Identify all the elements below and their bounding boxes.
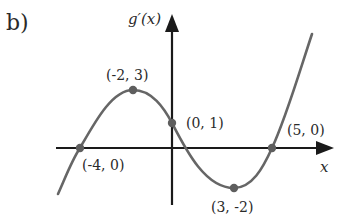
x-axis-label: x (320, 160, 328, 175)
point-5-0 (268, 144, 276, 152)
point-label-neg4-0: (-4, 0) (82, 158, 124, 172)
point-3-neg2 (230, 184, 238, 192)
y-axis-arrow-icon (165, 14, 179, 32)
point-neg2-3 (129, 86, 137, 94)
x-axis-arrow-icon (316, 141, 334, 155)
part-label: b) (6, 12, 29, 34)
point-neg4-0 (76, 144, 84, 152)
graph-canvas (0, 0, 337, 217)
point-label-5-0: (5, 0) (287, 123, 325, 137)
point-label-neg2-3: (-2, 3) (106, 68, 148, 82)
point-label-0-1: (0, 1) (186, 116, 224, 130)
point-label-3-neg2: (3, -2) (211, 200, 253, 214)
y-axis-label: g′(x) (128, 12, 161, 27)
point-0-1 (168, 119, 176, 127)
graph-figure: b) g′(x) x (-4, 0) (-2, 3) (0, 1) (3, -2… (0, 0, 337, 217)
